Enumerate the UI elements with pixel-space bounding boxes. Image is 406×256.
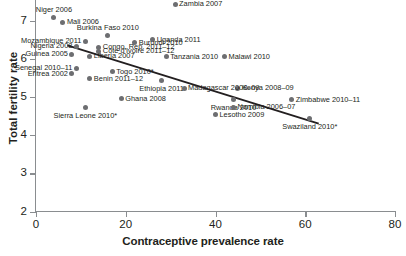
data-point-label: Burkina Faso 2010	[77, 24, 139, 31]
x-tick-mark	[36, 211, 37, 217]
data-point-label: Lesotho 2009	[220, 111, 265, 118]
x-tick-mark	[395, 211, 396, 217]
y-tick-mark	[30, 59, 36, 60]
x-tick-label: 20	[109, 219, 143, 231]
x-tick-label: 0	[19, 219, 53, 231]
y-tick-label: 3	[5, 167, 27, 179]
x-tick-label: 60	[288, 219, 322, 231]
data-point-label: Madagascar 2008–09	[188, 85, 260, 92]
data-point[interactable]	[83, 105, 88, 110]
x-tick-mark	[216, 211, 217, 217]
data-point[interactable]	[74, 66, 79, 71]
x-tick-label: 80	[378, 219, 406, 231]
data-point[interactable]	[173, 2, 178, 7]
data-point-label: Guinea 2005	[26, 50, 68, 57]
data-point[interactable]	[164, 54, 169, 59]
data-point[interactable]	[60, 20, 65, 25]
data-point[interactable]	[213, 112, 218, 117]
data-point-label: Liberia 2007	[94, 53, 135, 60]
x-tick-mark	[305, 211, 306, 217]
data-point[interactable]	[231, 97, 236, 102]
data-point[interactable]	[69, 52, 74, 57]
data-point[interactable]	[182, 86, 187, 91]
data-point[interactable]	[159, 78, 164, 83]
data-point-label: Benin 2011–12	[94, 75, 143, 82]
y-tick-mark	[30, 173, 36, 174]
data-point-label: Niger 2006	[36, 6, 72, 13]
data-point[interactable]	[74, 44, 79, 49]
x-tick-label: 40	[199, 219, 233, 231]
y-tick-label: 2	[5, 206, 27, 218]
x-tick-mark	[126, 211, 127, 217]
data-point[interactable]	[307, 116, 312, 121]
data-point-label: Sierra Leone 2010*	[54, 112, 118, 119]
y-tick-mark	[30, 97, 36, 98]
x-axis-title: Contraceptive prevalence rate	[0, 235, 406, 247]
y-tick-label: 7	[5, 15, 27, 27]
data-point-label: Tanzania 2010	[170, 53, 218, 60]
data-point-label: Zimbabwe 2010–11	[296, 96, 360, 103]
y-tick-mark	[30, 21, 36, 22]
data-point-label: Zambia 2007	[179, 1, 222, 8]
data-point[interactable]	[222, 54, 227, 59]
data-point[interactable]	[87, 76, 92, 81]
data-point[interactable]	[51, 15, 56, 20]
data-point-label: Ghana 2008	[125, 95, 166, 102]
data-point-label: Swaziland 2010*	[282, 123, 337, 130]
y-axis-title: Total fertility rate	[7, 33, 19, 163]
data-point[interactable]	[119, 96, 124, 101]
y-axis-line	[35, 0, 36, 212]
data-point[interactable]	[105, 33, 110, 38]
data-point[interactable]	[87, 54, 92, 59]
scatter-chart: 234567 020406080 Niger 2006Mali 2006Zamb…	[0, 0, 406, 256]
data-point[interactable]	[83, 39, 88, 44]
data-point-label: Ethiopia 2011	[139, 85, 184, 92]
data-point[interactable]	[69, 71, 74, 76]
data-point[interactable]	[231, 105, 236, 110]
y-tick-mark	[30, 135, 36, 136]
data-point-label: Eritrea 2002	[28, 70, 68, 77]
data-point-label: Malawi 2010	[228, 53, 270, 60]
